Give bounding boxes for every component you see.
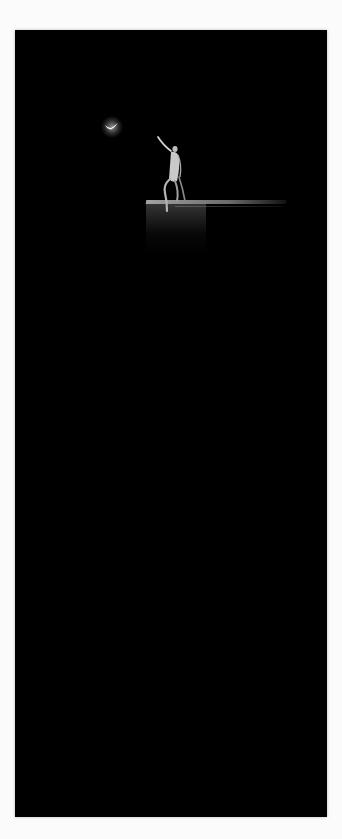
dancer-figure [155, 135, 205, 215]
bird-icon [105, 123, 118, 130]
artwork-panel [15, 30, 327, 817]
